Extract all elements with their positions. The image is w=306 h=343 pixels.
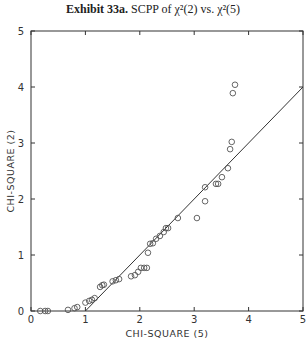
x-tick-label: 3 (191, 314, 197, 325)
x-axis-label: CHI-SQUARE (5) (125, 328, 208, 339)
x-tick-label: 5 (300, 314, 306, 325)
x-tick-label: 2 (137, 314, 143, 325)
x-tick-label: 4 (245, 314, 251, 325)
x-tick-label: 1 (82, 314, 88, 325)
y-tick-label: 3 (18, 138, 24, 149)
data-point (229, 139, 235, 145)
data-point (145, 250, 151, 256)
y-tick-label: 4 (18, 82, 24, 93)
plot-frame (31, 31, 303, 311)
y-tick-label: 0 (18, 306, 24, 317)
data-point (116, 276, 122, 282)
data-point (194, 215, 200, 221)
data-point (132, 272, 138, 278)
data-point (219, 174, 225, 180)
data-point (227, 146, 233, 152)
data-point (225, 165, 231, 171)
y-tick-label: 2 (18, 194, 24, 205)
data-point (232, 82, 238, 88)
data-point (230, 90, 236, 96)
reference-line (85, 87, 303, 311)
data-point (128, 273, 134, 279)
y-axis-label: CHI-SQUARE (2) (5, 129, 16, 212)
y-tick-label: 1 (18, 250, 24, 261)
data-point (202, 198, 208, 204)
data-point (135, 269, 141, 275)
y-tick-label: 5 (18, 26, 24, 37)
x-tick-label: 0 (28, 314, 34, 325)
data-point (65, 307, 71, 313)
scatter-plot: 012345012345CHI-SQUARE (5)CHI-SQUARE (2) (0, 0, 306, 343)
